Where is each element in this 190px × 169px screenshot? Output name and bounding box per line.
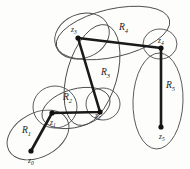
region-label-r5: R5 xyxy=(165,80,176,92)
node-z4 xyxy=(158,45,163,50)
figure-canvas: R1 R2 R3 R4 R5 z0 z1 z2 xyxy=(0,0,190,169)
node-label-z1: z1 xyxy=(49,118,56,128)
region-label-r4: R4 xyxy=(118,22,129,34)
node-z2 xyxy=(97,109,102,114)
region-r5-ellipse xyxy=(131,52,184,150)
node-label-z5: z5 xyxy=(158,132,165,142)
node-label-z3: z3 xyxy=(70,25,77,35)
node-label-z0: z0 xyxy=(27,156,34,166)
node-z1 xyxy=(49,110,54,115)
polygonal-path xyxy=(31,38,161,151)
region-r2-r3-overlap-arc xyxy=(86,88,120,120)
node-label-z4: z4 xyxy=(157,36,164,46)
region-label-r1: R1 xyxy=(21,125,31,137)
region-path-diagram: R1 R2 R3 R4 R5 z0 z1 z2 xyxy=(0,0,190,169)
region-r3-r4-overlap-arc xyxy=(48,5,116,67)
region-label-r2: R2 xyxy=(62,92,73,104)
node-z5 xyxy=(158,124,163,129)
region-label-r3: R3 xyxy=(100,67,111,79)
node-z3 xyxy=(75,35,80,40)
node-z0 xyxy=(28,148,33,153)
region-r3-ellipse xyxy=(54,18,131,132)
